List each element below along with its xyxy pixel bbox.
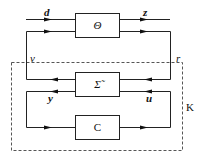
theta-block-label: Θ xyxy=(75,20,120,31)
arrow-v-theta-icon xyxy=(44,30,52,34)
arrow-u-c-icon xyxy=(140,126,148,130)
arrow-v-sigma-icon xyxy=(50,78,58,82)
k-region-label: K xyxy=(186,102,194,113)
signal-d-label: d xyxy=(44,7,50,18)
signal-z-label: z xyxy=(143,7,147,18)
signal-u-label: u xyxy=(146,93,152,104)
arrow-r-theta-icon xyxy=(140,30,148,34)
arrow-y-c-icon xyxy=(44,126,52,130)
signal-r-label: r xyxy=(176,53,180,64)
arrow-d-icon xyxy=(44,18,52,22)
controller-block-label: C xyxy=(75,122,120,133)
signal-u-line xyxy=(120,92,171,128)
signal-v-label: v xyxy=(30,53,35,64)
sigma-block-label: Σ̃ xyxy=(75,79,120,90)
arrow-z-icon xyxy=(140,18,148,22)
arrow-r-sigma-icon xyxy=(144,78,152,82)
signal-r-line xyxy=(120,32,171,80)
signal-y-label: y xyxy=(48,93,53,104)
